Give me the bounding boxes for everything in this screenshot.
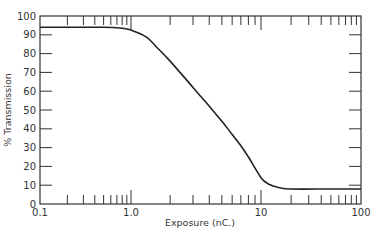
x-tick-label: 10 xyxy=(255,207,268,218)
x-tick-label: 1.0 xyxy=(123,207,139,218)
y-tick-label: 30 xyxy=(23,142,36,153)
y-tick-label: 80 xyxy=(23,48,36,59)
y-tick-label: 90 xyxy=(23,29,36,40)
y-tick-label: 60 xyxy=(23,86,36,97)
transmission-chart: 0102030405060708090100 0.11.010100 Expos… xyxy=(0,0,380,238)
y-tick-label: 100 xyxy=(17,11,36,22)
x-axis-title: Exposure (nC.) xyxy=(165,217,235,228)
x-tick-label: 0.1 xyxy=(32,207,48,218)
y-tick-label: 10 xyxy=(23,180,36,191)
x-tick-label: 100 xyxy=(351,207,370,218)
transmission-curve xyxy=(40,27,361,189)
y-axis-title: % Transmission xyxy=(2,73,13,146)
plot-frame xyxy=(40,16,361,204)
axis-ticks xyxy=(40,16,361,204)
y-tick-label: 50 xyxy=(23,105,36,116)
y-axis-tick-labels: 0102030405060708090100 xyxy=(17,11,36,210)
y-tick-label: 20 xyxy=(23,161,36,172)
y-tick-label: 70 xyxy=(23,67,36,78)
y-tick-label: 40 xyxy=(23,123,36,134)
